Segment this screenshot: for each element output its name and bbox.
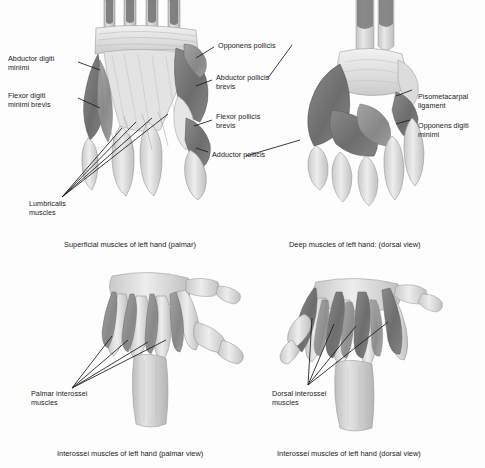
label-abductor-pollicis-brevis: Abductor pollicis brevis [216, 74, 292, 91]
caption-interossei-palmar: Interossei muscles of left hand (palmar … [57, 449, 203, 458]
anatomy-figure: Abductor digiti minimi Flexor digiti min… [0, 0, 485, 468]
label-dorsal-interossei-muscles: Dorsal interossei muscles [272, 390, 358, 407]
label-abductor-digiti-minimi: Abductor digiti minimi [8, 55, 78, 72]
label-flexor-pollicis-brevis: Flexor pollicis brevis [216, 113, 286, 130]
label-palmar-interossei-muscles: Palmar interossei muscles [31, 390, 117, 407]
label-opponens-digiti-minimi: Opponens digiti minimi [418, 122, 484, 139]
label-opponens-pollicis: Opponens pollicis [218, 42, 302, 51]
label-adductor-pollicis: Adductor pollicis [212, 151, 298, 160]
label-pisometacarpal-ligament: Pisometacarpal ligament [418, 93, 484, 110]
caption-deep-dorsal: Deep muscles of left hand: (dorsal view) [289, 240, 420, 249]
label-lumbricalis-muscles: Lumbricalis muscles [29, 200, 99, 217]
caption-interossei-dorsal: Interossei muscles of left hand (dorsal … [277, 449, 421, 458]
label-flexor-digiti-minimi-brevis: Flexor digiti minimi brevis [8, 92, 80, 109]
caption-superficial-palmar: Superficial muscles of left hand (palmar… [64, 240, 196, 249]
